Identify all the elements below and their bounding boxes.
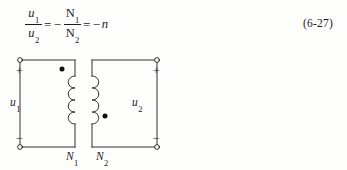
N1-label-symbol: N bbox=[66, 150, 74, 162]
u1-subscript: 1 bbox=[35, 15, 39, 25]
figure-page: u1 u2 = − N1 N2 = − n (6-27) bbox=[0, 0, 347, 170]
N2-symbol: N bbox=[66, 26, 75, 40]
u1-label-subscript: 1 bbox=[16, 104, 20, 114]
voltage-ratio-denominator: u2 bbox=[26, 26, 41, 43]
secondary-terminal-top bbox=[155, 58, 160, 63]
primary-minus-sign: − bbox=[16, 132, 23, 144]
voltage-ratio-numerator: u1 bbox=[26, 6, 41, 23]
primary-winding-label: N1 bbox=[66, 151, 78, 165]
secondary-winding-label: N2 bbox=[96, 151, 108, 165]
primary-winding-coil bbox=[68, 76, 75, 124]
primary-terminal-top bbox=[18, 58, 23, 63]
equals-sign-2: = bbox=[83, 18, 90, 31]
secondary-minus-sign: − bbox=[153, 132, 160, 144]
secondary-polarity-dot bbox=[103, 114, 108, 119]
N1-symbol: N bbox=[66, 6, 75, 20]
u2-label-symbol: u bbox=[132, 96, 138, 108]
N2-label-symbol: N bbox=[96, 150, 104, 162]
n-symbol: n bbox=[102, 18, 108, 31]
N1-label-subscript: 1 bbox=[74, 158, 78, 168]
secondary-terminal-bottom bbox=[155, 145, 160, 150]
secondary-winding-coil bbox=[92, 76, 99, 124]
equation-row: u1 u2 = − N1 N2 = − n (6-27) bbox=[0, 4, 347, 44]
equals-sign-1: = bbox=[44, 18, 51, 31]
transformer-ratio-equation: u1 u2 = − N1 N2 = − n bbox=[24, 6, 108, 43]
secondary-plus-sign: + bbox=[153, 65, 160, 77]
u1-symbol: u bbox=[28, 6, 34, 20]
primary-polarity-dot bbox=[60, 67, 65, 72]
u2-symbol: u bbox=[28, 26, 34, 40]
u2-label-subscript: 2 bbox=[138, 104, 142, 114]
turns-ratio-numerator: N1 bbox=[64, 6, 81, 23]
primary-plus-sign: + bbox=[16, 65, 23, 77]
equation-number: (6-27) bbox=[303, 17, 333, 29]
N2-label-subscript: 2 bbox=[104, 158, 108, 168]
primary-terminal-bottom bbox=[18, 145, 23, 150]
minus-sign-2: − bbox=[93, 18, 100, 31]
u1-label-symbol: u bbox=[10, 96, 16, 108]
fraction-bar bbox=[25, 24, 42, 25]
voltage-ratio-fraction: u1 u2 bbox=[25, 6, 42, 43]
N1-subscript: 1 bbox=[75, 15, 79, 25]
turns-ratio-denominator: N2 bbox=[64, 26, 81, 43]
circuit-svg bbox=[0, 44, 347, 170]
primary-voltage-label: u1 bbox=[10, 97, 20, 111]
turns-ratio-fraction: N1 N2 bbox=[64, 6, 81, 43]
secondary-voltage-label: u2 bbox=[132, 97, 142, 111]
minus-sign-1: − bbox=[54, 18, 61, 31]
transformer-circuit-diagram: + − u1 N1 + − u2 N2 bbox=[0, 44, 347, 170]
